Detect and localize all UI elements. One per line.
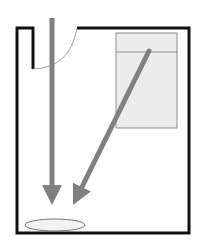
floor-plan-diagram xyxy=(0,0,197,247)
bed xyxy=(116,33,177,128)
bed-frame xyxy=(116,33,177,128)
door-swing-arc xyxy=(33,28,77,69)
floor-spot-ellipse xyxy=(25,219,85,231)
